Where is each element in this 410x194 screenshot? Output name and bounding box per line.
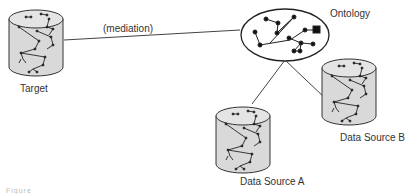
edge-label-mediation: (mediation): [103, 23, 153, 34]
target-label: Target: [20, 83, 48, 94]
edge-ontology-source-a: [252, 60, 285, 104]
source-b-label: Data Source B: [340, 132, 405, 143]
target-database-icon: [9, 10, 63, 76]
figure-caption: Figure: [6, 187, 32, 194]
source-a-label: Data Source A: [240, 176, 304, 187]
source-b-database-icon: [322, 59, 376, 125]
edge-ontology-source-b: [285, 60, 325, 98]
diagram-canvas: [0, 0, 410, 194]
ontology-graph-icon: [241, 9, 329, 61]
ontology-label: Ontology: [330, 8, 370, 19]
source-a-database-icon: [216, 107, 270, 173]
